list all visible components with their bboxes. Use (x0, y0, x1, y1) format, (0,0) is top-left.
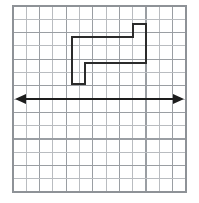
figure-canvas (0, 0, 199, 203)
grid-figure-svg (0, 0, 199, 203)
figure-background (0, 0, 199, 203)
